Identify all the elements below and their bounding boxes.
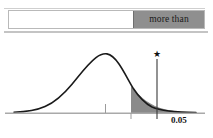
star-icon: ★ bbox=[153, 50, 161, 59]
shaded-tail-area bbox=[131, 87, 196, 114]
answer-bar-top-rule bbox=[4, 8, 205, 9]
normal-curve-figure: more than 0 1.65 2.34 0.05 z ★ bbox=[0, 0, 213, 138]
answer-bar-bottom-rule bbox=[4, 31, 208, 33]
normal-curve-path bbox=[14, 54, 196, 113]
distribution-plot: 0 1.65 2.34 0.05 z bbox=[0, 36, 213, 138]
answer-bar-blank-segment[interactable] bbox=[9, 11, 133, 28]
answer-bar-filled-segment[interactable]: more than bbox=[133, 11, 204, 28]
answer-bar[interactable]: more than bbox=[8, 10, 205, 29]
tail-area-label: 0.05 bbox=[171, 116, 187, 125]
